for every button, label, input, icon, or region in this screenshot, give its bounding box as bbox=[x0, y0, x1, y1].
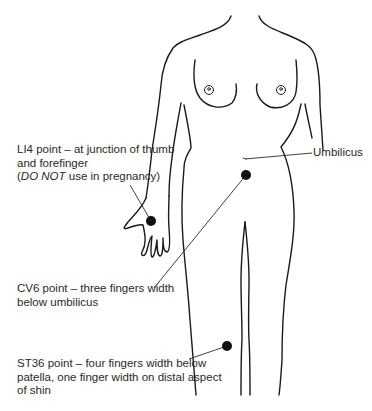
st36-label-line3: of shin bbox=[17, 384, 222, 398]
li4-label-line2: and forefinger bbox=[17, 157, 174, 171]
li4-label-line1: LI4 point – at junction of thumb bbox=[17, 143, 174, 157]
st36-label: ST36 point – four fingers width below pa… bbox=[17, 357, 222, 398]
st36-point-marker bbox=[222, 341, 232, 351]
left-breast-outline bbox=[194, 60, 236, 107]
li4-label-line3: (DO NOT use in pregnancy) bbox=[17, 170, 174, 184]
right-torso-side bbox=[279, 104, 301, 395]
right-shoulder-outline bbox=[259, 16, 323, 150]
umbilicus-label: Umbilicus bbox=[313, 146, 363, 160]
li4-warning: DO NOT bbox=[21, 170, 66, 182]
st36-label-line2: patella, one finger width on distal aspe… bbox=[17, 371, 222, 385]
cv6-leader-line bbox=[154, 175, 246, 288]
inner-right-leg bbox=[245, 222, 250, 395]
li4-label: LI4 point – at junction of thumb and for… bbox=[17, 143, 174, 184]
left-hand-outline bbox=[124, 196, 169, 257]
left-torso-side bbox=[182, 105, 196, 395]
umbilicus-leader-line bbox=[245, 153, 312, 159]
right-breast-outline bbox=[257, 60, 298, 108]
st36-label-line1: ST36 point – four fingers width below bbox=[17, 357, 222, 371]
body-outline-figure bbox=[0, 0, 372, 411]
acupressure-diagram: LI4 point – at junction of thumb and for… bbox=[0, 0, 372, 411]
li4-point-marker bbox=[146, 216, 156, 226]
cv6-label-line1: CV6 point – three fingers width bbox=[17, 282, 174, 296]
inner-left-leg bbox=[241, 222, 245, 395]
cv6-point-marker bbox=[241, 170, 251, 180]
right-inner-arm-outline bbox=[305, 104, 312, 138]
cv6-label-line2: below umbilicus bbox=[17, 296, 174, 310]
cv6-label: CV6 point – three fingers width below um… bbox=[17, 282, 174, 309]
